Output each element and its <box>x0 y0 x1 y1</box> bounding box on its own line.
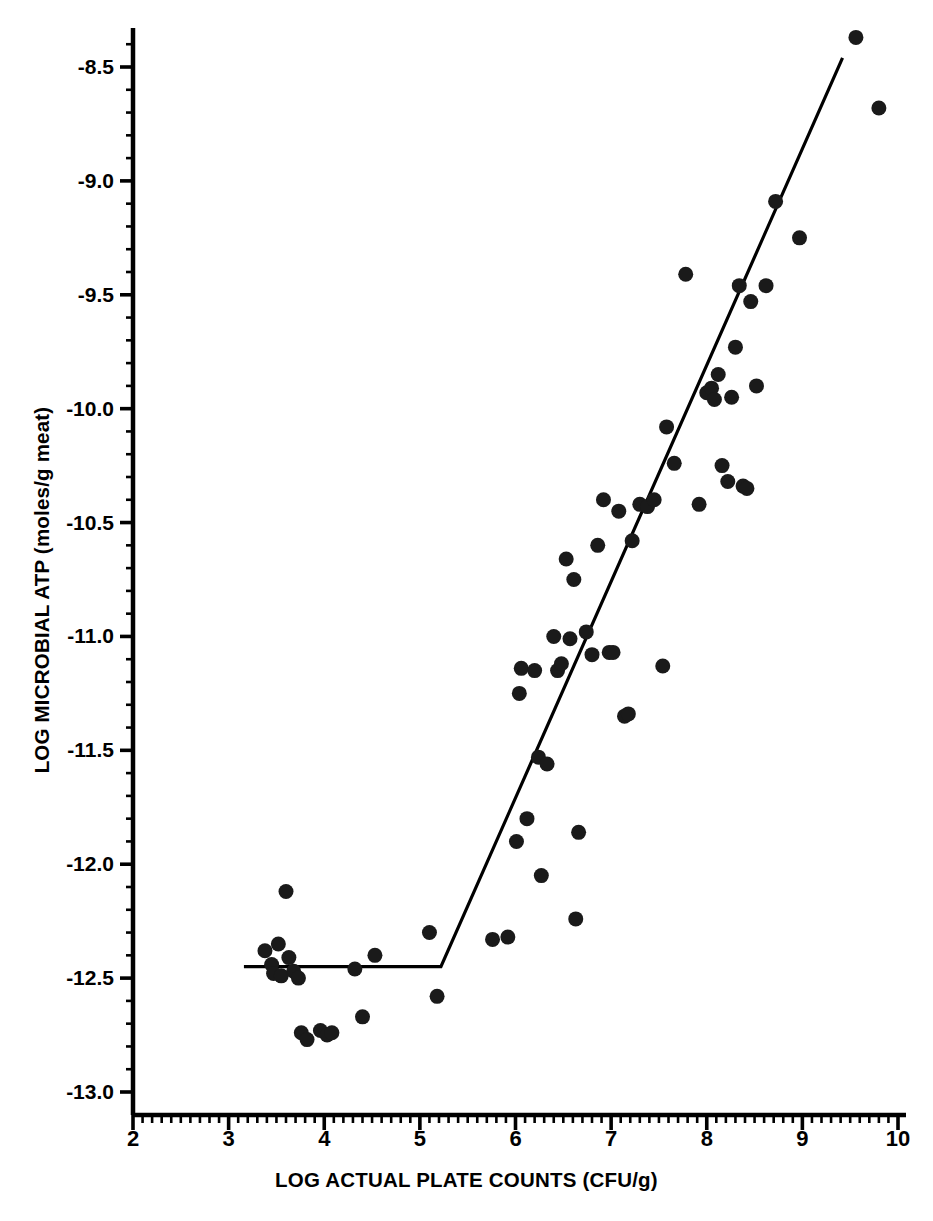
data-point <box>300 1032 315 1047</box>
fit-line-path <box>244 58 843 967</box>
data-point <box>563 631 578 646</box>
data-point <box>422 925 437 940</box>
x-tick-label: 8 <box>677 1126 737 1152</box>
x-tick-label: 10 <box>868 1126 928 1152</box>
data-point <box>585 647 600 662</box>
data-point <box>559 552 574 567</box>
data-point <box>527 663 542 678</box>
x-tick-label: 3 <box>199 1126 259 1152</box>
y-tick-label: -9.0 <box>24 169 114 193</box>
data-point <box>743 294 758 309</box>
data-point <box>324 1025 339 1040</box>
regression-fit-line <box>244 58 843 967</box>
data-point <box>724 390 739 405</box>
y-tick-label: -8.5 <box>24 55 114 79</box>
data-point <box>707 392 722 407</box>
y-tick-label: -10.0 <box>24 397 114 421</box>
data-point <box>566 572 581 587</box>
data-point <box>509 834 524 849</box>
data-point <box>571 825 586 840</box>
data-point <box>655 659 670 674</box>
data-point <box>485 932 500 947</box>
data-point <box>715 458 730 473</box>
data-point <box>281 950 296 965</box>
data-point <box>728 340 743 355</box>
y-axis-title: LOG MICROBIAL ATP (moles/g meat) <box>30 380 54 800</box>
y-tick-label: -11.5 <box>24 738 114 762</box>
data-point <box>848 30 863 45</box>
data-point <box>667 456 682 471</box>
data-point <box>768 194 783 209</box>
data-point <box>647 492 662 507</box>
data-point <box>500 930 515 945</box>
chart-figure: LOG MICROBIAL ATP (moles/g meat) LOG ACT… <box>0 0 933 1221</box>
data-point <box>749 378 764 393</box>
data-point <box>759 278 774 293</box>
data-point <box>871 101 886 116</box>
y-tick-label: -11.0 <box>24 624 114 648</box>
data-point <box>271 936 286 951</box>
data-point <box>621 706 636 721</box>
y-tick-label: -13.0 <box>24 1080 114 1104</box>
data-point <box>291 971 306 986</box>
data-point <box>692 497 707 512</box>
data-point <box>579 624 594 639</box>
x-tick-label: 2 <box>103 1126 163 1152</box>
data-point <box>659 419 674 434</box>
y-tick-label: -9.5 <box>24 283 114 307</box>
data-point <box>611 504 626 519</box>
y-tick-label: -12.5 <box>24 966 114 990</box>
data-point <box>732 278 747 293</box>
data-point <box>430 989 445 1004</box>
data-point <box>540 757 555 772</box>
data-point <box>546 629 561 644</box>
data-point <box>554 656 569 671</box>
data-point <box>514 661 529 676</box>
data-point <box>606 645 621 660</box>
scatter-plot-canvas <box>0 0 933 1221</box>
data-point <box>512 686 527 701</box>
x-tick-label: 4 <box>294 1126 354 1152</box>
x-tick-label: 7 <box>581 1126 641 1152</box>
data-point <box>678 267 693 282</box>
data-point <box>257 943 272 958</box>
data-point <box>347 962 362 977</box>
data-point <box>711 367 726 382</box>
data-point <box>625 533 640 548</box>
data-point <box>720 474 735 489</box>
y-tick-label: -10.5 <box>24 511 114 535</box>
data-point <box>519 811 534 826</box>
data-point <box>739 481 754 496</box>
data-point <box>279 884 294 899</box>
data-point <box>792 230 807 245</box>
data-point <box>590 538 605 553</box>
x-tick-label: 6 <box>486 1126 546 1152</box>
data-point <box>534 868 549 883</box>
x-axis-title: LOG ACTUAL PLATE COUNTS (CFU/g) <box>0 1168 933 1192</box>
axes <box>120 28 906 1130</box>
data-point <box>568 911 583 926</box>
y-tick-label: -12.0 <box>24 852 114 876</box>
data-point <box>355 1009 370 1024</box>
data-point <box>367 948 382 963</box>
data-points <box>257 30 886 1047</box>
x-tick-label: 5 <box>390 1126 450 1152</box>
x-tick-label: 9 <box>772 1126 832 1152</box>
data-point <box>596 492 611 507</box>
